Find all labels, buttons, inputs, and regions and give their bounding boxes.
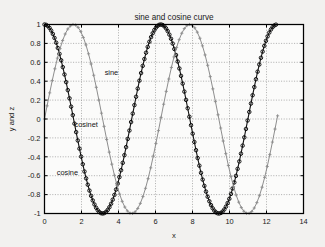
y-tick-label: -0.8 [28, 190, 41, 199]
chart-plot: 02468101214 -1-0.8-0.6-0.4-0.200.20.40.6… [0, 0, 325, 247]
x-tick-label: 10 [225, 217, 233, 226]
x-tick-label: 8 [190, 217, 194, 226]
y-tick-label: 0.4 [30, 77, 40, 86]
x-tick-label: 14 [299, 217, 307, 226]
x-tick-label: 4 [116, 217, 120, 226]
y-tick-label: 0.8 [30, 39, 40, 48]
x-tick-label: 0 [42, 217, 46, 226]
y-tick-label: 0.2 [30, 96, 40, 105]
x-tick-label: 6 [153, 217, 157, 226]
x-axis-label: x [172, 231, 176, 240]
y-tick-label: 0 [36, 115, 40, 124]
y-tick-label: 0.6 [30, 58, 40, 67]
y-tick-label: -0.6 [28, 171, 41, 180]
y-tick-label: -0.4 [28, 153, 41, 162]
annotation-sine: sine [105, 68, 119, 77]
figure-canvas: 02468101214 -1-0.8-0.6-0.4-0.200.20.40.6… [0, 0, 325, 247]
annotation-cosinet: cosinet [74, 120, 97, 129]
y-tick-label: 1 [36, 20, 40, 29]
y-axis-label: y and z [7, 107, 16, 132]
x-tick-label: 12 [262, 217, 270, 226]
y-tick-label: -1 [34, 209, 41, 218]
chart-title: sine and cosine curve [134, 13, 214, 22]
y-tick-label: -0.2 [28, 134, 41, 143]
annotation-cosine: cosine [57, 168, 78, 177]
x-tick-label: 2 [79, 217, 83, 226]
